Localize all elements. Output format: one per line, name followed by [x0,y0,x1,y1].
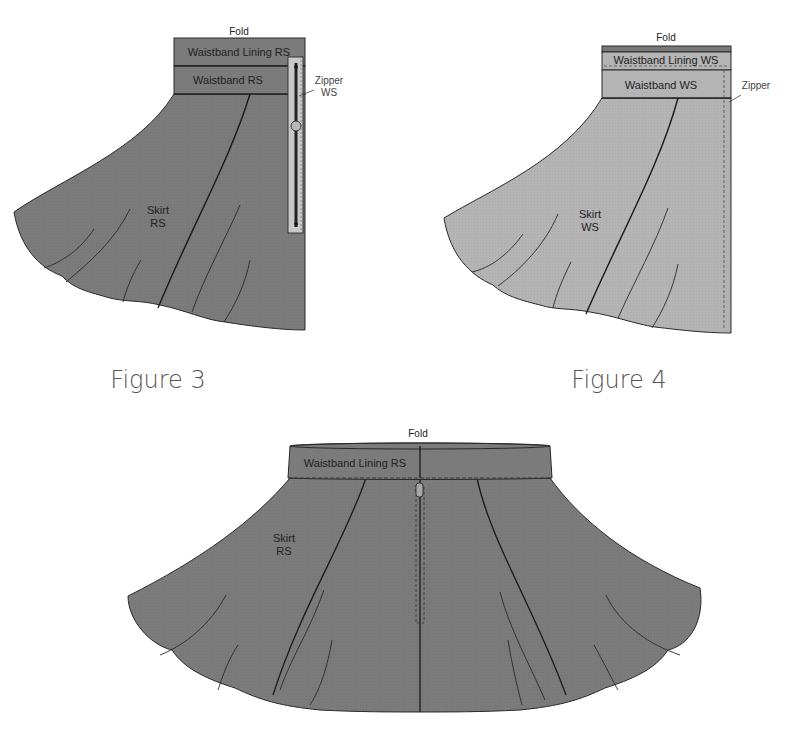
fig4-skirt-ws-label: WS [581,221,599,233]
fig3-fold-label: Fold [229,26,248,37]
figure-4: Fold Waistband Lining WS Waistband WS Zi… [444,32,771,394]
figure-3: Fold Waistband Lining RS Waistband RS Zi… [14,26,344,394]
fig3-caption: Figure 3 [110,366,205,394]
fig4-fold-label: Fold [656,32,675,43]
fig3-skirt-rs-label: RS [150,217,165,229]
fig5-fold-label: Fold [408,428,427,439]
fig3-zipper-ws-label: WS [321,87,337,98]
fig3-waistband-label: Waistband RS [193,74,263,86]
fig4-waistband-lining-label: Waistband Lining WS [614,54,719,66]
fig4-skirt-label: Skirt [579,208,601,220]
fig4-zipper-label: Zipper [742,80,771,91]
fig3-skirt-label: Skirt [147,204,169,216]
diagram-canvas: Fold Waistband Lining RS Waistband RS Zi… [0,0,787,734]
fig5-skirt-label: Skirt [273,532,295,544]
fig3-zipper-label: Zipper [315,75,344,86]
fig3-waistband-lining-label: Waistband Lining RS [188,46,290,58]
fig4-fold-edge [602,46,731,52]
zipper-pull-icon [416,483,423,497]
figure-5: Fold Waistband Lining RS Skirt RS [128,428,701,712]
zipper-pull-icon [291,121,301,131]
fig4-caption: Figure 4 [571,366,666,394]
fig4-waistband-label: Waistband WS [625,79,697,91]
fig5-waistband-lining-label: Waistband Lining RS [304,457,406,469]
fig5-skirt-rs-label: RS [276,545,291,557]
fig3-zipper [288,57,314,233]
